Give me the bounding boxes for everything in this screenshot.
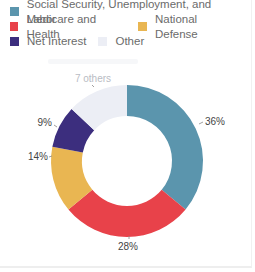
label-others: 7 others (75, 73, 111, 84)
label-social-security: 36% (205, 116, 225, 127)
slice-medicare[interactable] (68, 190, 185, 237)
chart-card: Social Security, Unemployment, and Labor… (0, 0, 252, 268)
slice-social-security[interactable] (127, 85, 203, 209)
label-national-defense: 14% (28, 151, 48, 162)
donut-slices (51, 85, 203, 237)
donut-chart: 36% 28% 14% 9% 7 others (0, 0, 255, 272)
label-medicare: 28% (118, 241, 138, 252)
label-net-interest: 9% (38, 117, 53, 128)
